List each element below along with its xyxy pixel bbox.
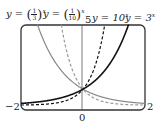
curves — [21, 25, 145, 105]
legend-label-one-tenth: y = (110)x — [43, 6, 85, 21]
plot-frame — [21, 25, 145, 110]
curve-three-power — [21, 25, 129, 104]
x-min-tick-label: −2 — [5, 101, 20, 112]
curve-one-third-power — [37, 25, 145, 104]
origin-tick-label: 0 — [79, 112, 85, 123]
y-max-tick-label: 5 — [85, 14, 91, 25]
legend-label-one-third: y = (13)x — [6, 6, 46, 21]
legend-label-three-power: y = 3x — [125, 10, 155, 23]
legend-label-ten-power: y = 10x — [92, 10, 129, 23]
x-max-tick-label: 2 — [147, 101, 153, 112]
